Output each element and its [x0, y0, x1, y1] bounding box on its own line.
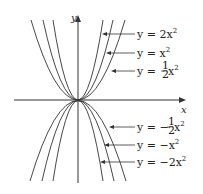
svg-text:x2: x2: [174, 120, 185, 134]
x-axis-label: x: [181, 104, 187, 115]
label-y-half-x2: y = 1 2 x2: [136, 59, 179, 81]
x-axis-arrow-icon: [179, 97, 186, 103]
label-y-neg-half-x2: y = − 1 2 x2: [136, 115, 185, 137]
label-y-2x2: y = 2x2: [136, 27, 177, 41]
parabola-family-diagram: y x y = 2x2 y = x2 y = 1 2 x2 y = −: [0, 0, 203, 194]
svg-text:y = −: y = −: [136, 121, 169, 134]
label-y-neg-x2: y = −x2: [136, 138, 179, 152]
y-axis-label: y: [70, 12, 77, 23]
curve-labels: y = 2x2 y = x2 y = 1 2 x2 y = − 1 2 x2 y…: [136, 27, 186, 169]
svg-text:x2: x2: [168, 64, 179, 78]
label-y-neg-2x2: y = −2x2: [136, 155, 186, 169]
svg-text:y =: y =: [136, 65, 156, 78]
label-y-x2: y = x2: [136, 46, 170, 60]
